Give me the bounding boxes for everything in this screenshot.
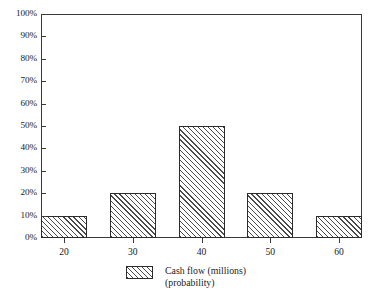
bar [110, 193, 156, 238]
y-axis-tick-mark [41, 59, 46, 60]
y-axis-tick-mark [41, 81, 46, 82]
x-axis-tick-mark [339, 238, 340, 243]
bars-layer [41, 14, 362, 238]
x-axis-tick-mark [133, 238, 134, 243]
x-axis-tick-mark [202, 238, 203, 243]
y-axis-tick-label: 60% [0, 99, 37, 108]
y-axis-tick-label: 90% [0, 32, 37, 41]
y-axis-tick-mark [41, 36, 46, 37]
legend-label-line-2: (probability) [165, 277, 246, 289]
y-axis-tick-label: 0% [0, 233, 37, 242]
x-axis-tick-mark [270, 238, 271, 243]
y-axis-tick-label: 20% [0, 189, 37, 198]
bar [179, 126, 225, 238]
y-axis-tick-mark [41, 171, 46, 172]
bar [247, 193, 293, 238]
x-axis-tick-mark [64, 238, 65, 243]
y-axis-tick-mark [41, 104, 46, 105]
y-axis-tick-mark [41, 193, 46, 194]
legend-label-line-1: Cash flow (millions) [165, 265, 246, 277]
x-axis-tick-label: 30 [128, 246, 138, 257]
y-axis-tick-mark [41, 216, 46, 217]
y-axis: 0%10%20%30%40%50%60%70%80%90%100% [0, 14, 37, 238]
y-axis-tick-label: 70% [0, 77, 37, 86]
y-axis-tick-label: 40% [0, 144, 37, 153]
legend-label: Cash flow (millions) (probability) [165, 265, 246, 288]
chart-legend: Cash flow (millions) (probability) [126, 265, 246, 288]
x-axis-tick-label: 20 [59, 246, 69, 257]
x-axis-tick-label: 50 [265, 246, 275, 257]
y-axis-tick-mark [41, 148, 46, 149]
y-axis-tick-label: 10% [0, 211, 37, 220]
bar-chart: 0%10%20%30%40%50%60%70%80%90%100% Cash f… [0, 0, 376, 299]
y-axis-tick-label: 30% [0, 166, 37, 175]
y-axis-tick-label: 50% [0, 121, 37, 130]
y-axis-tick-label: 100% [0, 9, 37, 18]
bar [41, 216, 87, 238]
y-axis-tick-label: 80% [0, 54, 37, 63]
bar [316, 216, 362, 238]
y-axis-tick-mark [41, 126, 46, 127]
x-axis-tick-label: 60 [334, 246, 344, 257]
x-axis-tick-label: 40 [197, 246, 207, 257]
legend-swatch-hatch-icon [126, 266, 153, 279]
